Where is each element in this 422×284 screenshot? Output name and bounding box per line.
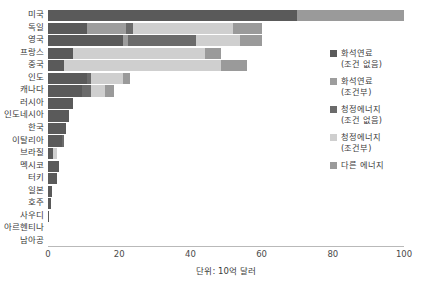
category-label: 아르헨티나 [4,223,44,232]
category-label: 멕시코 [20,160,44,169]
category-label: 일본 [28,185,44,194]
chart-legend: 화석연료 (조건 없음)화석연료 (조건부)청정에너지 (조건 없음)청정에너지… [330,48,420,178]
legend-swatch-icon [330,162,337,169]
legend-label: 화석연료 (조건 없음) [341,48,382,69]
legend-label: 청정에너지 (조건부) [341,132,381,153]
legend-label: 청정에너지 (조건 없음) [341,104,382,125]
legend-item[interactable]: 청정에너지 (조건 없음) [330,104,420,125]
category-label: 미국 [28,10,44,19]
chart-row: 사우디 [48,208,404,221]
legend-label: 다른 에너지 [341,160,384,171]
legend-item[interactable]: 다른 에너지 [330,160,420,171]
chart-row: 독일 [48,21,404,34]
legend-swatch-icon [330,78,337,85]
category-label: 브라질 [20,148,44,157]
category-label: 중국 [28,60,44,69]
category-label: 캐나다 [20,85,44,94]
x-tick-label: 80 [327,249,338,259]
category-label: 독일 [28,23,44,32]
category-label: 터키 [28,173,44,182]
category-label: 프랑스 [20,48,44,57]
x-tick-label: 0 [45,249,50,259]
category-label: 이탈리아 [12,135,44,144]
legend-swatch-icon [330,106,337,113]
category-label: 사우디 [20,210,44,219]
category-label: 한국 [28,123,44,132]
x-axis-line [48,246,404,247]
chart-row: 호주 [48,196,404,209]
category-label: 인도 [28,73,44,82]
legend-swatch-icon [330,134,337,141]
chart-row: 영국 [48,33,404,46]
x-tick-label: 60 [256,249,267,259]
x-tick-label: 100 [396,249,412,259]
category-label: 영국 [28,35,44,44]
legend-item[interactable]: 화석연료 (조건부) [330,76,420,97]
legend-item[interactable]: 청정에너지 (조건부) [330,132,420,153]
legend-label: 화석연료 (조건부) [341,76,373,97]
category-label: 러시아 [20,98,44,107]
chart-row: 아르헨티나 [48,221,404,234]
category-label: 인도네시아 [4,110,44,119]
chart-screenshot: 미국독일영국프랑스중국인도캐나다러시아인도네시아한국이탈리아브라질멕시코터키일본… [0,0,422,284]
category-label: 호주 [28,198,44,207]
category-label: 남아공 [20,235,44,244]
chart-row: 미국 [48,8,404,21]
legend-swatch-icon [330,50,337,57]
x-tick-label: 40 [185,249,196,259]
x-axis-caption: 단위: 10억 달러 [48,264,404,276]
x-tick-label: 20 [114,249,125,259]
chart-row: 남아공 [48,233,404,246]
legend-item[interactable]: 화석연료 (조건 없음) [330,48,420,69]
chart-row: 일본 [48,183,404,196]
